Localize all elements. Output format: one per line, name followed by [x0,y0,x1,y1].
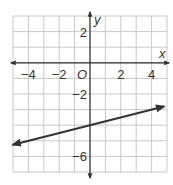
x-tick-label: 2 [117,67,124,82]
origin-label: O [77,67,87,82]
x-tick-label: 4 [148,67,155,82]
y-tick-label: −6 [72,149,87,164]
x-axis-label: x [158,46,166,61]
y-tick-label: 2 [80,25,87,40]
x-tick-label: −4 [21,67,36,82]
axes [11,12,169,178]
y-axis-label: y [93,12,102,27]
coordinate-plane: −4−2242−2−6 x y O [0,0,173,185]
y-tick-label: −2 [72,87,87,102]
x-tick-label: −2 [52,67,67,82]
